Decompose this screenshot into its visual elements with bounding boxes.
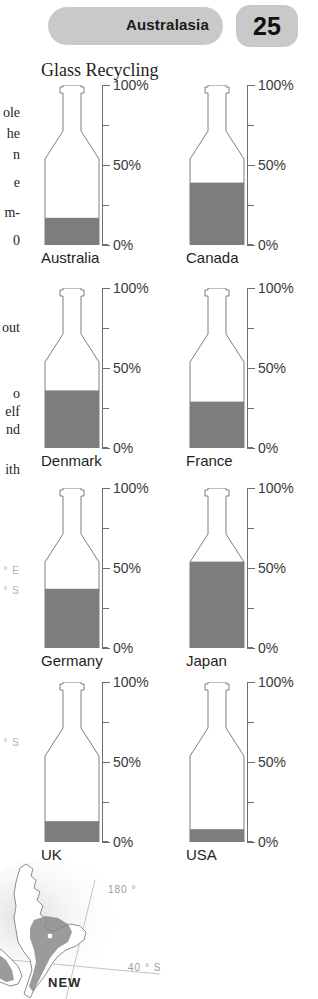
map-grid-label: 0 ° E [0, 565, 20, 576]
region-title-pill: Australasia [48, 7, 223, 45]
map-country-name-label: NEW [48, 975, 81, 990]
axis-tick [102, 722, 109, 723]
bottle-fill-level [41, 589, 103, 648]
country-label: Denmark [41, 452, 161, 469]
axis-label-100: 100% [113, 280, 149, 296]
bottle-shape [41, 288, 103, 448]
bottle-fill-level [41, 390, 103, 448]
axis-tick [247, 648, 255, 649]
map-grid-label-180: 180 ° [108, 884, 136, 895]
axis-label-100: 100% [113, 480, 149, 496]
map-grid-label: -20 ° S [0, 585, 20, 596]
body-text-line: o [13, 386, 20, 402]
bottle-shape [186, 682, 248, 842]
axis-tick [247, 165, 255, 166]
axis-label-50: 50% [258, 157, 286, 173]
axis-tick [102, 368, 110, 369]
axis-label-100: 100% [258, 77, 294, 93]
axis-tick [247, 608, 254, 609]
axis-tick [102, 608, 109, 609]
axis-tick [247, 288, 255, 289]
percent-axis: 100%50%0% [102, 288, 158, 448]
body-text-line: m- [4, 205, 20, 221]
axis-tick [102, 682, 110, 683]
percent-axis: 100%50%0% [102, 488, 158, 648]
bottle-gauge [41, 85, 103, 245]
axis-label-50: 50% [258, 360, 286, 376]
axis-label-50: 50% [113, 754, 141, 770]
country-label: Canada [186, 249, 306, 266]
bottle-gauge-panel: 100%50%0%Denmark [41, 288, 171, 478]
bottle-shape [186, 488, 248, 648]
axis-tick [247, 842, 255, 843]
bottle-gauge [41, 288, 103, 448]
bottle-shape [41, 488, 103, 648]
axis-tick [247, 85, 255, 86]
bottle-gauge-panel: 100%50%0%USA [186, 682, 316, 872]
percent-axis: 100%50%0% [102, 682, 158, 842]
axis-label-100: 100% [113, 674, 149, 690]
page-number-label: 25 [236, 12, 298, 41]
percent-axis: 100%50%0% [102, 85, 158, 245]
bottle-gauge [186, 288, 248, 448]
country-label: Germany [41, 652, 161, 669]
bottle-fill-level [41, 218, 103, 245]
bottle-outline [45, 682, 99, 842]
axis-label-100: 100% [113, 77, 149, 93]
page-number-pill: 25 [236, 5, 298, 47]
bottle-gauge-panel: 100%50%0%Canada [186, 85, 316, 275]
bottle-gauge-panel: 100%50%0%Germany [41, 488, 171, 678]
axis-tick [102, 245, 110, 246]
axis-tick [247, 448, 255, 449]
axis-tick [102, 328, 109, 329]
axis-label-50: 50% [113, 560, 141, 576]
bottle-gauge-panel: 100%50%0%France [186, 288, 316, 478]
bottle-shape [41, 85, 103, 245]
axis-tick [247, 722, 254, 723]
bottle-fill-level [186, 402, 248, 448]
axis-tick [102, 288, 110, 289]
axis-tick [102, 125, 109, 126]
lake-taupo [47, 933, 53, 939]
bottle-fill-level [186, 562, 248, 648]
bottle-shape [41, 682, 103, 842]
axis-label-50: 50% [258, 754, 286, 770]
axis-tick [247, 682, 255, 683]
body-text-line: ole [3, 105, 20, 121]
country-label: USA [186, 846, 306, 863]
body-text-line: he [7, 126, 20, 142]
bottle-gauge [186, 488, 248, 648]
country-label: Australia [41, 249, 161, 266]
axis-tick [247, 528, 254, 529]
axis-label-50: 50% [258, 560, 286, 576]
region-title-label: Australasia [126, 16, 209, 33]
body-text-line: elf [5, 404, 20, 420]
axis-tick [102, 802, 109, 803]
axis-tick [247, 488, 255, 489]
body-text-line: n [13, 147, 20, 163]
axis-tick [102, 85, 110, 86]
country-label: France [186, 452, 306, 469]
bottle-fill-level [186, 183, 248, 245]
axis-tick [102, 568, 110, 569]
percent-axis: 100%50%0% [247, 682, 303, 842]
axis-tick [102, 448, 110, 449]
country-label: UK [41, 846, 161, 863]
axis-label-100: 100% [258, 674, 294, 690]
axis-label-100: 100% [258, 480, 294, 496]
axis-tick [247, 568, 255, 569]
percent-axis: 100%50%0% [247, 288, 303, 448]
bottle-gauge [186, 682, 248, 842]
axis-label-100: 100% [258, 280, 294, 296]
axis-tick [102, 762, 110, 763]
bottle-fill-level [186, 829, 248, 842]
body-text-line: e [14, 175, 20, 191]
body-text-line: out [2, 320, 20, 336]
axis-tick [247, 125, 254, 126]
bottle-shape [186, 85, 248, 245]
axis-tick [102, 488, 110, 489]
percent-axis: 100%50%0% [247, 488, 303, 648]
bottle-fill-level [41, 821, 103, 842]
body-text-gutter: olehenem-0outoelfndith0 ° E-20 ° S0 ° S [0, 0, 20, 999]
bottle-gauge-panel: 100%50%0%UK [41, 682, 171, 872]
